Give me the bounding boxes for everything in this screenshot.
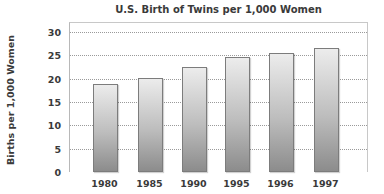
x-tick-label: 1997	[306, 178, 346, 189]
y-tick-label: 20	[31, 73, 61, 84]
bar-1997	[314, 48, 339, 172]
x-tick-label: 1990	[174, 178, 214, 189]
y-tick-label: 5	[31, 143, 61, 154]
x-tick-label: 1995	[217, 178, 257, 189]
y-tick-label: 25	[31, 50, 61, 61]
x-tick-label: 1996	[261, 178, 301, 189]
gridline	[70, 32, 367, 33]
y-axis-label: Births per 1,000 Women	[5, 35, 16, 165]
y-tick-label: 10	[31, 120, 61, 131]
bar-1980	[93, 84, 118, 172]
y-tick-label: 0	[31, 167, 61, 178]
x-tick-label: 1985	[130, 178, 170, 189]
bar-1996	[269, 53, 294, 172]
plot-area	[69, 22, 368, 172]
y-tick-label: 30	[31, 27, 61, 38]
x-tick-label: 1980	[85, 178, 125, 189]
chart-title: U.S. Birth of Twins per 1,000 Women	[69, 4, 368, 15]
bar-1985	[138, 78, 163, 172]
bar-1995	[225, 57, 250, 172]
y-tick-label: 15	[31, 97, 61, 108]
bar-1990	[182, 67, 207, 172]
